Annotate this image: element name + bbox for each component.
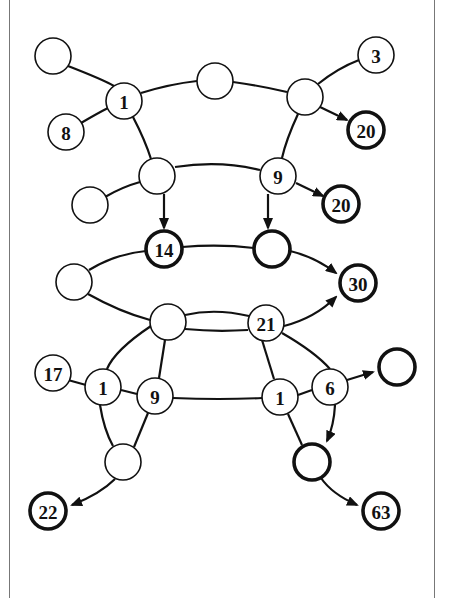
graph-node xyxy=(56,264,92,300)
directed-edge xyxy=(320,107,347,120)
edge xyxy=(175,164,260,170)
edges-layer xyxy=(68,60,373,505)
graph-node: 17 xyxy=(35,355,71,391)
node-circle xyxy=(150,304,186,340)
edge xyxy=(88,294,150,320)
node-circle xyxy=(35,38,71,74)
edge xyxy=(134,413,148,447)
node-circle xyxy=(139,158,175,194)
graph-node xyxy=(294,444,330,480)
node-label: 1 xyxy=(119,92,129,113)
edge xyxy=(185,312,249,316)
edge xyxy=(282,333,330,369)
graph-node xyxy=(150,304,186,340)
edge xyxy=(159,340,165,378)
node-label: 63 xyxy=(372,502,391,523)
edge xyxy=(121,390,137,394)
node-label: 9 xyxy=(150,387,160,408)
node-label: 9 xyxy=(273,167,283,188)
node-circle xyxy=(287,79,323,115)
edge xyxy=(133,117,151,159)
node-circle xyxy=(197,63,233,99)
edge xyxy=(288,414,302,445)
graph-node: 1 xyxy=(262,379,298,415)
graph-node xyxy=(254,231,290,267)
directed-edge xyxy=(290,251,336,273)
edge xyxy=(100,405,113,446)
directed-edge xyxy=(327,405,335,441)
graph-node xyxy=(379,349,415,385)
node-label: 14 xyxy=(155,240,175,261)
graph-node xyxy=(287,79,323,115)
graph-node: 9 xyxy=(137,378,173,414)
graph-node: 3 xyxy=(358,37,394,73)
graph-node: 1 xyxy=(106,83,142,119)
node-label: 30 xyxy=(349,274,368,295)
node-label: 1 xyxy=(275,388,285,409)
graph-node: 1 xyxy=(85,369,121,405)
node-label: 8 xyxy=(61,123,71,144)
edge xyxy=(318,60,359,84)
graph-node: 6 xyxy=(312,369,348,405)
graph-node: 22 xyxy=(30,493,66,529)
directed-edge xyxy=(72,479,115,505)
graph-node xyxy=(105,444,141,480)
edge xyxy=(141,81,197,93)
edge xyxy=(81,108,108,123)
nodes-layer: 183209201430211719162263 xyxy=(30,37,415,529)
directed-edge xyxy=(347,372,373,380)
edge xyxy=(185,329,248,331)
node-circle xyxy=(105,444,141,480)
edge xyxy=(298,390,312,395)
edge xyxy=(107,326,151,369)
edge xyxy=(262,340,274,379)
edge xyxy=(68,380,86,385)
graph-node: 21 xyxy=(248,305,284,341)
graph-node xyxy=(72,187,108,223)
edge xyxy=(68,66,114,86)
graph-node xyxy=(139,158,175,194)
graph-node: 63 xyxy=(363,493,399,529)
edge xyxy=(182,246,254,248)
graph-node xyxy=(197,63,233,99)
node-label: 20 xyxy=(332,195,351,216)
node-label: 6 xyxy=(325,378,335,399)
directed-edge xyxy=(321,478,357,505)
graph-node: 20 xyxy=(348,112,384,148)
edge xyxy=(233,82,287,92)
node-label: 17 xyxy=(44,364,64,385)
bold-node-circle xyxy=(379,349,415,385)
graph-node: 30 xyxy=(340,265,376,301)
node-circle xyxy=(72,187,108,223)
graph-node: 14 xyxy=(146,231,182,267)
bold-node-circle xyxy=(254,231,290,267)
edge xyxy=(105,182,140,197)
graph-node: 20 xyxy=(323,186,359,222)
graph-node xyxy=(35,38,71,74)
node-circle xyxy=(56,264,92,300)
directed-edge xyxy=(296,183,323,196)
edge xyxy=(173,398,262,399)
node-label: 22 xyxy=(39,502,58,523)
node-label: 3 xyxy=(371,46,381,67)
directed-edge xyxy=(284,297,336,326)
node-label: 1 xyxy=(98,378,108,399)
edge xyxy=(282,114,298,158)
bold-node-circle xyxy=(294,444,330,480)
node-label: 20 xyxy=(357,121,376,142)
graph-node: 8 xyxy=(48,114,84,150)
graph-node: 9 xyxy=(260,158,296,194)
node-label: 21 xyxy=(257,314,276,335)
edge xyxy=(89,251,146,270)
